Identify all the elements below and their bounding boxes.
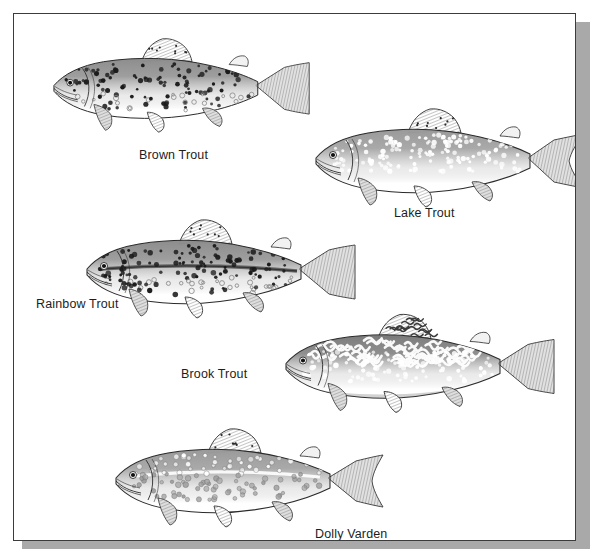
illustration-plate-canvas: Brown TroutLake TroutRainbow TroutBrook … bbox=[14, 14, 575, 540]
fish-illustration-lake-trout bbox=[296, 106, 575, 211]
species-label-lake-trout: Lake Trout bbox=[394, 206, 455, 220]
fish-illustration-brown-trout bbox=[28, 36, 318, 136]
fish-illustration-dolly-varden bbox=[96, 426, 386, 531]
species-label-dolly-varden: Dolly Varden bbox=[315, 527, 387, 540]
illustration-plate-frame: Brown TroutLake TroutRainbow TroutBrook … bbox=[13, 13, 576, 541]
species-label-rainbow-trout: Rainbow Trout bbox=[36, 297, 119, 311]
fish-illustration-brook-trout bbox=[266, 309, 556, 419]
species-label-brown-trout: Brown Trout bbox=[139, 148, 208, 162]
species-label-brook-trout: Brook Trout bbox=[181, 367, 247, 381]
